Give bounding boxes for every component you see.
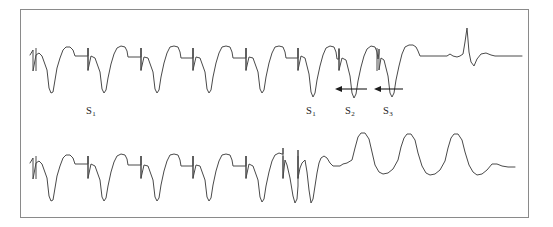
lower-trace-path (30, 133, 515, 203)
label-s2: S2 (345, 106, 354, 117)
label-s1-left: S1 (86, 106, 95, 117)
ecg-figure: S1 S1 S2 S3 (0, 0, 553, 227)
lower-pacing-spikes (36, 156, 298, 179)
upper-trace-group (30, 28, 522, 98)
label-s1-right: S1 (306, 106, 315, 117)
waveform-canvas (0, 0, 553, 227)
label-s3: S3 (383, 106, 392, 117)
upper-pacing-spikes (36, 48, 377, 71)
interval-arrow-s3 (374, 86, 403, 92)
upper-trace-path (30, 28, 522, 98)
lower-trace-group (30, 133, 515, 203)
